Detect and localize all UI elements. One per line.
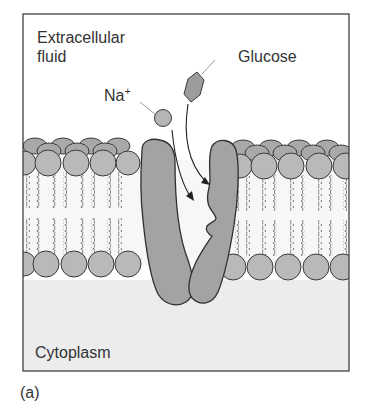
extracellular-label-line2: fluid xyxy=(37,48,66,66)
extracellular-label-line1: Extracellular xyxy=(37,29,125,47)
panel-label: (a) xyxy=(20,384,40,402)
cytoplasm-label: Cytoplasm xyxy=(35,344,111,362)
glucose-label: Glucose xyxy=(238,48,297,66)
sodium-ion xyxy=(155,110,172,127)
sodium-symbol: Na xyxy=(104,87,124,104)
sodium-label: Na+ xyxy=(104,82,131,105)
sodium-charge: + xyxy=(124,85,130,97)
